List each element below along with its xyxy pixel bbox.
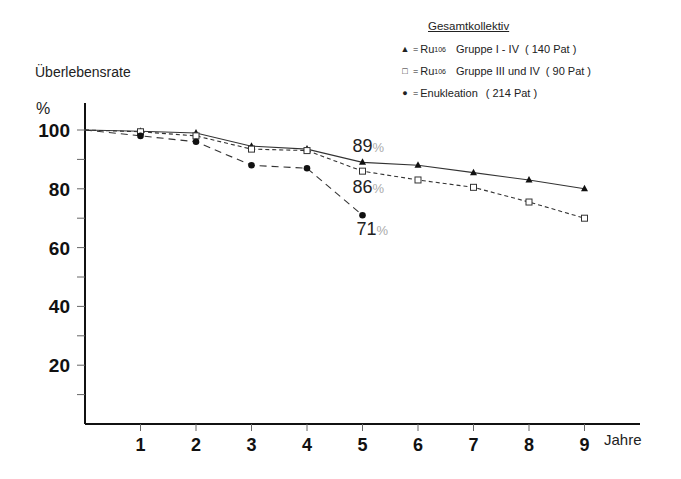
circle-marker	[304, 165, 311, 172]
legend-item-enukleation: ● = Enukleation ( 214 Pat )	[400, 82, 591, 104]
x-tick-label: 8	[524, 435, 534, 455]
square-marker	[360, 168, 366, 174]
annotation-value: 86%	[353, 177, 385, 197]
filled-circle-icon: ●	[400, 88, 410, 98]
series-line-1	[85, 130, 585, 218]
legend-label: Enukleation	[420, 87, 478, 99]
legend-count: ( 90 Pat )	[546, 65, 591, 77]
square-marker	[415, 177, 421, 183]
circle-marker	[137, 133, 144, 140]
annotation-percent: %	[373, 140, 385, 155]
open-square-icon: □	[400, 66, 410, 76]
x-tick-label: 1	[135, 435, 145, 455]
x-tick-label: 3	[246, 435, 256, 455]
legend-sup: 106	[434, 68, 446, 75]
y-tick-label: 60	[49, 238, 70, 259]
legend-title: Gesamtkollektiv	[428, 20, 591, 32]
annotation-value: 89%	[353, 136, 385, 156]
triangle-marker	[415, 161, 422, 168]
series-line-0	[85, 130, 585, 189]
legend-label: Gruppe III und IV	[456, 65, 540, 77]
x-tick-label: 2	[191, 435, 201, 455]
y-unit-label: %	[36, 100, 50, 117]
filled-triangle-icon: ▲	[400, 44, 410, 54]
annotation-value: 71%	[357, 219, 389, 239]
legend-prefix: Ru	[420, 65, 434, 77]
square-marker	[249, 146, 255, 152]
square-marker	[304, 148, 310, 154]
circle-marker	[248, 162, 255, 169]
legend-count: ( 140 Pat )	[525, 43, 576, 55]
x-tick-label: 5	[357, 435, 367, 455]
square-marker	[193, 133, 199, 139]
y-tick-label: 80	[49, 179, 70, 200]
square-marker	[582, 215, 588, 221]
legend-count: ( 214 Pat )	[486, 87, 537, 99]
annotation-percent: %	[377, 223, 389, 238]
x-tick-label: 6	[413, 435, 423, 455]
circle-marker	[359, 212, 366, 219]
legend-prefix: Ru	[420, 43, 434, 55]
x-tick-label: 9	[579, 435, 589, 455]
x-tick-label: 7	[468, 435, 478, 455]
x-tick-label: 4	[302, 435, 312, 455]
square-marker	[471, 184, 477, 190]
circle-marker	[193, 138, 200, 145]
square-marker	[526, 199, 532, 205]
legend: Gesamtkollektiv ▲ = Ru106 Gruppe I - IV …	[400, 20, 591, 104]
y-tick-label: 40	[49, 296, 70, 317]
legend-item-ru-3-4: □ = Ru106 Gruppe III und IV ( 90 Pat )	[400, 60, 591, 82]
series-line-2	[85, 130, 363, 215]
annotation-percent: %	[373, 181, 385, 196]
legend-item-ru-all: ▲ = Ru106 Gruppe I - IV ( 140 Pat )	[400, 38, 591, 60]
legend-sup: 106	[434, 46, 446, 53]
x-axis-title: Jahre	[604, 431, 642, 448]
legend-label: Gruppe I - IV	[456, 43, 519, 55]
y-tick-label: 100	[38, 120, 70, 141]
y-tick-label: 20	[49, 355, 70, 376]
